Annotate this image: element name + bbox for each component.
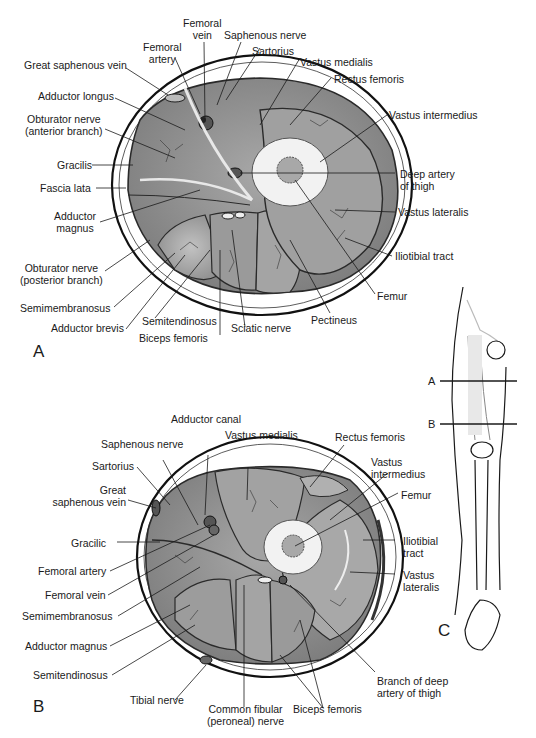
label-vastus-intermedius: Vastus intermedius [389, 109, 478, 121]
label-biceps-femoris: Biceps femoris [139, 332, 208, 344]
label-adductor-longus: Adductor longus [38, 90, 114, 102]
label-great-saphenous-vein: Great saphenous vein [24, 59, 127, 71]
label-saphenous-nerve: Saphenous nerve [224, 29, 306, 41]
label-great-saphenous-vein: Great saphenous vein [52, 484, 126, 508]
label-vastus-medialis: Vastus medialis [225, 429, 298, 441]
label-saphenous-nerve: Saphenous nerve [101, 438, 183, 450]
label-sciatic-nerve: Sciatic nerve [231, 322, 291, 334]
label-obturator-anterior: Obturator nerve (anterior branch) [25, 113, 103, 137]
label-vastus-lateralis: Vastus lateralis [403, 569, 439, 593]
label-adductor-magnus: Adductor magnus [25, 640, 107, 652]
panel-letter-a: A [33, 342, 44, 362]
cross-section-b [137, 437, 403, 677]
label-vastus-lateralis: Vastus lateralis [398, 206, 468, 218]
label-rectus-femoris: Rectus femoris [335, 431, 405, 443]
label-vastus-medialis: Vastus medialis [300, 56, 373, 68]
label-gracilis: Gracilis [57, 159, 92, 171]
label-femur: Femur [377, 290, 407, 302]
label-semitendinosus: Semitendinosus [33, 669, 108, 681]
level-marker-a: A [428, 375, 435, 387]
label-semimembranosus: Semimembranosus [20, 302, 110, 314]
leg-diagram-c [440, 287, 517, 650]
label-gracilic: Gracilic [71, 537, 106, 549]
label-common-fibular-nerve: Common fibular (peroneal) nerve [207, 703, 284, 727]
label-sartorius: Sartorius [252, 45, 294, 57]
label-rectus-femoris: Rectus femoris [334, 73, 404, 85]
level-marker-b: B [428, 418, 435, 430]
panel-letter-c: C [438, 621, 450, 641]
cross-section-a [112, 55, 412, 315]
label-adductor-magnus: Adductor magnus [54, 210, 96, 234]
label-tibial-nerve: Tibial nerve [130, 694, 184, 706]
label-vastus-intermedius: Vastus intermedius [371, 456, 425, 480]
label-femur: Femur [401, 489, 431, 501]
label-fascia-lata: Fascia lata [40, 182, 91, 194]
label-iliotibial-tract: Iliotibial tract [403, 535, 438, 559]
label-femoral-vein: Femoral vein [183, 17, 222, 41]
label-pectineus: Pectineus [311, 314, 357, 326]
panel-letter-b: B [33, 697, 44, 717]
label-semimembranosus: Semimembranosus [22, 610, 112, 622]
label-adductor-brevis: Adductor brevis [51, 322, 124, 334]
label-femoral-vein: Femoral vein [45, 589, 106, 601]
label-iliotibial-tract: Iliotibial tract [395, 250, 453, 262]
label-biceps-femoris: Biceps femoris [293, 703, 362, 715]
label-adductor-canal: Adductor canal [171, 413, 241, 425]
label-branch-of-deep-artery: Branch of deep artery of thigh [377, 675, 448, 699]
label-sartorius: Sartorius [92, 460, 134, 472]
label-semitendinosus: Semitendinosus [142, 315, 217, 327]
label-femoral-artery: Femoral artery [143, 41, 182, 65]
label-femoral-artery: Femoral artery [38, 565, 106, 577]
label-obturator-posterior: Obturator nerve (posterior branch) [20, 262, 103, 286]
label-deep-artery-of-thigh: Deep artery of thigh [400, 168, 455, 192]
